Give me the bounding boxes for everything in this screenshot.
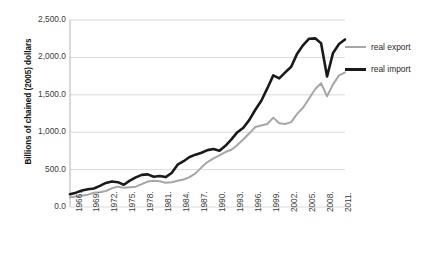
x-axis-tick-label: 1996. (253, 192, 263, 212)
x-axis-tick-label: 2002. (289, 192, 299, 212)
x-axis-tick-label: 2005. (307, 192, 317, 212)
chart-container: Billions of chained (2005) dollars 0.050… (0, 0, 435, 257)
x-axis-tick-label: 1978. (145, 192, 155, 212)
chart-legend: real export real import (345, 36, 435, 80)
x-axis-tick-label: 1993. (235, 192, 245, 212)
x-axis-tick-label: 2008. (325, 192, 335, 212)
x-axis-tick-label: 1981. (163, 192, 173, 212)
x-axis-tick-label: 2011. (343, 192, 353, 212)
legend-label-real-import: real import (371, 64, 411, 74)
x-axis-tick-label: 1990. (217, 192, 227, 212)
legend-swatch-real-import (345, 68, 366, 71)
x-axis-tick-label: 1987. (199, 192, 209, 212)
x-axis-tick-label: 1984. (181, 192, 191, 212)
x-axis-tick-label: 1969. (91, 192, 101, 212)
legend-swatch-real-export (345, 46, 366, 48)
x-axis-tick-label: 1972. (109, 192, 119, 212)
legend-label-real-export: real export (371, 42, 411, 52)
legend-item-real-import: real import (345, 58, 435, 80)
x-axis-tick-label: 1975. (127, 192, 137, 212)
legend-item-real-export: real export (345, 36, 435, 58)
x-axis-tick-label: 1966. (74, 192, 84, 212)
x-axis-tick-label: 1999. (271, 192, 281, 212)
